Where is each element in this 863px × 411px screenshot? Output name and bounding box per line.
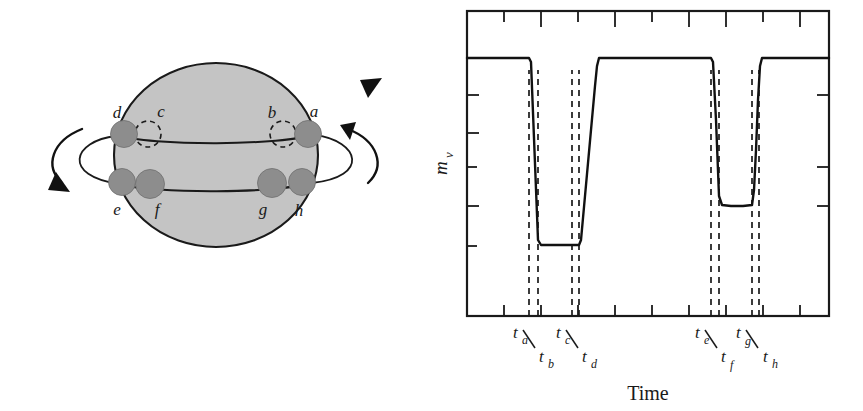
- svg-text:b: b: [548, 357, 554, 371]
- annotation-label-tg: t g: [736, 323, 751, 348]
- event-marker-lines: [529, 70, 759, 316]
- spot-h: [289, 169, 316, 196]
- spot-f: [136, 170, 165, 199]
- chart-canvas: t a t b t c t d t e: [431, 0, 863, 411]
- x-axis-ticks: [504, 305, 800, 316]
- svg-text:a: a: [522, 333, 528, 347]
- spot-g: [258, 169, 287, 198]
- annotation-label-te: t e: [695, 323, 710, 347]
- svg-text:c: c: [565, 333, 571, 347]
- y-axis-label-main: m: [431, 161, 451, 175]
- rotation-arrow-left: [48, 129, 82, 192]
- light-curve-trace: [467, 58, 829, 245]
- rotation-arrow-right: [340, 78, 382, 183]
- svg-text:t: t: [582, 347, 588, 366]
- svg-text:g: g: [745, 334, 751, 348]
- svg-text:e: e: [704, 333, 710, 347]
- star-body: [114, 63, 318, 247]
- rotating-star-diagram: d c b a e f g h: [0, 0, 431, 411]
- y-axis-label-sub: v: [441, 152, 456, 158]
- spot-label-g: g: [259, 200, 268, 219]
- svg-text:t: t: [763, 347, 769, 366]
- annotation-label-tc: t c: [556, 323, 571, 347]
- spot-d: [111, 121, 138, 148]
- light-curve-plot: t a t b t c t d t e: [431, 0, 863, 411]
- svg-text:t: t: [736, 323, 742, 342]
- annotation-label-tf: t f: [721, 347, 735, 372]
- svg-text:t: t: [695, 323, 701, 342]
- plot-frame: [467, 11, 829, 316]
- annotation-label-th: t h: [763, 347, 778, 371]
- svg-text:t: t: [556, 323, 562, 342]
- svg-text:h: h: [772, 357, 778, 371]
- spot-e: [109, 169, 136, 196]
- spot-label-c: c: [157, 102, 165, 121]
- svg-text:t: t: [539, 347, 545, 366]
- annotation-label-ta: t a: [513, 323, 528, 347]
- annotation-label-tb: t b: [539, 347, 554, 371]
- y-axis-label: m v: [431, 152, 456, 175]
- svg-text:f: f: [730, 358, 735, 372]
- annotation-label-td: t d: [582, 347, 598, 371]
- svg-text:t: t: [513, 323, 519, 342]
- spot-label-h: h: [295, 201, 304, 220]
- y-axis-ticks-right: [817, 95, 829, 206]
- spot-label-d: d: [113, 103, 122, 122]
- time-annotation-labels: t a t b t c t d t e: [513, 323, 778, 372]
- x-axis-ticks-top: [504, 11, 800, 27]
- figure-root: d c b a e f g h: [0, 0, 863, 411]
- svg-text:d: d: [591, 357, 598, 371]
- spot-a: [295, 121, 322, 148]
- spot-label-a: a: [310, 102, 319, 121]
- diagram-canvas: d c b a e f g h: [0, 0, 431, 411]
- x-axis-label: Time: [627, 382, 669, 404]
- y-axis-ticks: [467, 95, 479, 246]
- spot-label-e: e: [113, 200, 121, 219]
- spot-label-b: b: [268, 103, 277, 122]
- svg-text:t: t: [721, 347, 727, 366]
